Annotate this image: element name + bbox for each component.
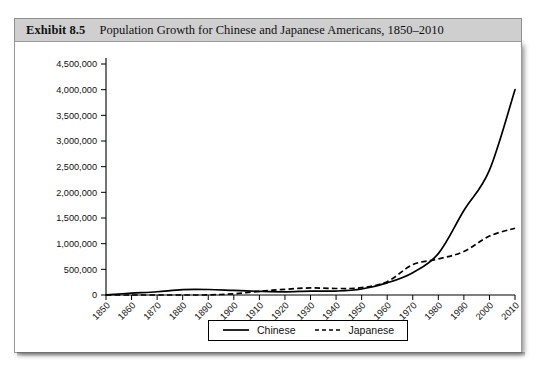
y-axis-tick-label: 3,500,000 — [56, 111, 97, 121]
series-line-japanese — [106, 228, 515, 295]
y-axis-tick-label: 4,500,000 — [56, 59, 97, 69]
x-axis-tick-label: 1920 — [269, 300, 291, 322]
y-axis-tick-label: 3,000,000 — [56, 136, 97, 146]
y-axis-tick-label: 2,500,000 — [56, 162, 97, 172]
legend-label-chinese: Chinese — [257, 324, 296, 336]
legend-item-chinese: Chinese — [222, 324, 296, 336]
x-axis-tick-label: 1860 — [116, 300, 138, 322]
x-axis-tick-label: 1950 — [346, 300, 368, 322]
y-axis-tick-label: 500,000 — [64, 265, 97, 275]
dashed-line-icon — [314, 326, 342, 334]
x-axis-tick-label: 1990 — [448, 300, 470, 322]
y-axis-tick-label: 1,000,000 — [56, 239, 97, 249]
y-axis-tick-label: 2,000,000 — [56, 188, 97, 198]
legend-item-japanese: Japanese — [314, 324, 395, 336]
x-axis-tick-label: 1970 — [397, 300, 419, 322]
y-axis: 0500,0001,000,0001,500,0002,000,0002,500… — [56, 58, 106, 300]
series-line-chinese — [106, 90, 515, 295]
x-axis-tick-label: 1850 — [90, 300, 112, 322]
line-chart: 0500,0001,000,0001,500,0002,000,0002,500… — [15, 42, 521, 352]
x-axis-tick-label: 1910 — [244, 300, 266, 322]
legend-label-japanese: Japanese — [349, 324, 395, 336]
exhibit-title-text: Population Growth for Chinese and Japane… — [99, 23, 443, 38]
solid-line-icon — [222, 326, 250, 334]
x-axis-tick-label: 1960 — [372, 300, 394, 322]
x-axis-tick-label: 1890 — [193, 300, 215, 322]
page-bottom-sliver — [0, 368, 555, 377]
x-axis-tick-label: 2000 — [474, 300, 496, 322]
x-axis-tick-label: 1900 — [218, 300, 240, 322]
exhibit-title-band: Exhibit 8.5 Population Growth for Chines… — [14, 18, 522, 41]
y-axis-tick-label: 0 — [92, 290, 97, 300]
x-axis-tick-label: 1880 — [167, 300, 189, 322]
exhibit-figure: Exhibit 8.5 Population Growth for Chines… — [14, 18, 522, 354]
x-axis: 1850186018701880189019001910192019301940… — [90, 295, 521, 322]
chart-legend: Chinese Japanese — [208, 320, 408, 341]
x-axis-tick-label: 1980 — [423, 300, 445, 322]
x-axis-tick-label: 1940 — [320, 300, 342, 322]
x-axis-tick-label: 1930 — [295, 300, 317, 322]
y-axis-tick-label: 1,500,000 — [56, 213, 97, 223]
y-axis-tick-label: 4,000,000 — [56, 85, 97, 95]
x-axis-tick-label: 1870 — [142, 300, 164, 322]
exhibit-number-label: Exhibit 8.5 — [26, 23, 85, 38]
frame-shadow — [17, 352, 525, 357]
chart-plot-area: 0500,0001,000,0001,500,0002,000,0002,500… — [14, 41, 522, 353]
x-axis-tick-label: 2010 — [499, 300, 521, 322]
